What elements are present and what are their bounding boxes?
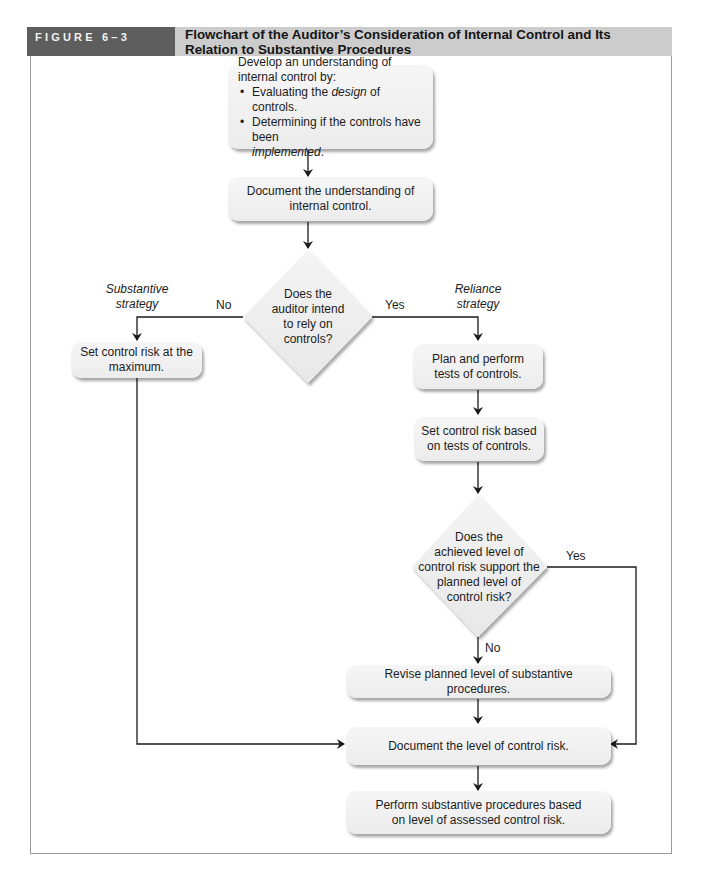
node-develop-understanding: Develop an understanding of internal con… xyxy=(228,65,433,149)
node-revise-substantive: Revise planned level of substantive proc… xyxy=(346,665,611,698)
label-yes-rely: Yes xyxy=(385,298,405,313)
label-no-rely: No xyxy=(216,298,231,313)
node-plan-perform-tests: Plan and perform tests of controls. xyxy=(413,344,543,389)
decision-rely-text: Does the auditor intend to rely on contr… xyxy=(258,287,358,347)
develop-bullets: Evaluating the design of controls. Deter… xyxy=(238,85,427,160)
develop-text: Develop an understanding of internal con… xyxy=(238,55,427,160)
decision-support-text: Does the achieved level of control risk … xyxy=(414,530,544,605)
label-no-support: No xyxy=(485,641,500,656)
develop-line1: Develop an understanding of internal con… xyxy=(238,55,427,85)
develop-bullet-implemented: Determining if the controls have beenimp… xyxy=(238,115,427,160)
node-set-control-risk-max: Set control risk at the maximum. xyxy=(71,342,202,378)
label-yes-support: Yes xyxy=(566,549,586,564)
node-set-control-risk-based: Set control risk based on tests of contr… xyxy=(414,417,544,461)
node-document-control-risk: Document the level of control risk. xyxy=(346,727,611,765)
node-document-understanding: Document the understanding of internal c… xyxy=(228,177,433,221)
label-reliance-strategy: Reliance strategy xyxy=(448,282,508,312)
node-perform-substantive: Perform substantive procedures based on … xyxy=(346,791,611,834)
label-substantive-strategy: Substantive strategy xyxy=(102,282,172,312)
develop-bullet-design: Evaluating the design of controls. xyxy=(238,85,427,115)
